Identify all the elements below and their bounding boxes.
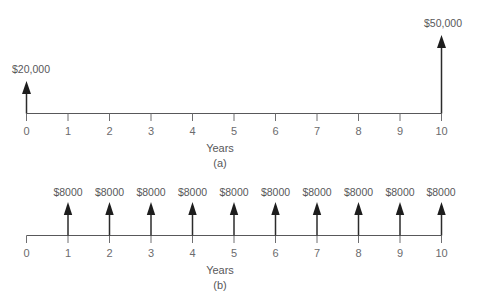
panel-a-tick-label-8: 8 (355, 125, 361, 137)
panel-b-tick-label-4: 4 (189, 247, 195, 259)
panel-a-arrow-head-year-0 (22, 81, 31, 94)
panel-b-arrow-head-year-2 (105, 202, 113, 215)
panel-b-axis-title: Years (206, 264, 234, 276)
panel-a-tick-label-10: 10 (435, 125, 447, 137)
panel-b-arrow-head-year-5 (230, 202, 238, 215)
panel-b-cash-flow-arrow-year-3 (147, 202, 155, 236)
panel-b-tick-label-3: 3 (148, 247, 154, 259)
panel-b-cash-flow-arrow-year-6 (271, 202, 279, 236)
panel-a-axis-title: Years (206, 142, 234, 154)
panel-a-tick-label-9: 9 (397, 125, 403, 137)
panel-b-cash-flow-arrow-year-7 (313, 202, 321, 236)
panel-b-amount-label-year-6: $8000 (261, 186, 290, 198)
panel-a-tick-label-5: 5 (231, 125, 237, 137)
panel-a-amount-label-year-10: $50,000 (424, 17, 462, 29)
panel-a-tick-label-2: 2 (106, 125, 112, 137)
panel-b-arrow-head-year-10 (437, 202, 445, 215)
panel-a-caption: (a) (213, 157, 226, 169)
panel-a-tick-label-7: 7 (314, 125, 320, 137)
panel-b-amount-label-year-2: $8000 (95, 186, 124, 198)
panel-b-cash-flow-arrow-year-9 (396, 202, 404, 236)
panel-b-arrow-head-year-8 (354, 202, 362, 215)
panel-b-arrow-head-year-9 (396, 202, 404, 215)
panel-b-tick-label-10: 10 (435, 247, 447, 259)
panel-b-arrow-head-year-6 (271, 202, 279, 215)
panel-b-arrow-head-year-1 (64, 202, 72, 215)
panel-b-amount-label-year-10: $8000 (426, 186, 455, 198)
panel-b-amount-label-year-8: $8000 (344, 186, 373, 198)
panel-b-tick-label-0: 0 (23, 247, 29, 259)
panel-a-amount-label-year-0: $20,000 (12, 63, 50, 75)
cash-flow-diagram-figure: 0 1 2 3 4 5 6 7 8 9 10 $20,000 $50,000 Y… (0, 0, 477, 300)
panel-b-arrow-head-year-4 (188, 202, 196, 215)
panel-b-amount-label-year-5: $8000 (219, 186, 248, 198)
panel-b-tick-label-7: 7 (314, 247, 320, 259)
panel-b-tick-label-6: 6 (272, 247, 278, 259)
panel-a-tick-label-0: 0 (23, 125, 29, 137)
panel-b-amount-label-year-3: $8000 (136, 186, 165, 198)
panel-a-cash-flow-arrow-year-10 (437, 35, 446, 114)
panel-b-cash-flow-arrow-year-8 (354, 202, 362, 236)
panel-b-cash-flow-arrow-year-2 (105, 202, 113, 236)
panel-b-arrow-head-year-3 (147, 202, 155, 215)
panel-a-arrow-head-year-10 (437, 35, 446, 48)
panel-a-cash-flow-arrow-year-0 (22, 81, 31, 114)
panel-b-tick-label-2: 2 (106, 247, 112, 259)
panel-b-cash-flow-arrow-year-4 (188, 202, 196, 236)
panel-b-cash-flow-arrow-year-10 (437, 202, 445, 236)
panel-b-amount-label-year-4: $8000 (178, 186, 207, 198)
panel-a: 0 1 2 3 4 5 6 7 8 9 10 $20,000 $50,000 Y… (12, 17, 462, 169)
panel-b-amount-label-year-7: $8000 (302, 186, 331, 198)
panel-b-amount-label-year-9: $8000 (385, 186, 414, 198)
panel-b-tick-label-5: 5 (231, 247, 237, 259)
panel-a-tick-label-6: 6 (272, 125, 278, 137)
panel-a-tick-label-3: 3 (148, 125, 154, 137)
panel-b-tick-label-9: 9 (397, 247, 403, 259)
panel-b-cash-flow-arrow-year-5 (230, 202, 238, 236)
panel-a-tick-label-1: 1 (65, 125, 71, 137)
panel-b-amount-label-year-1: $8000 (53, 186, 82, 198)
panel-b-caption: (b) (213, 279, 226, 291)
panel-b-arrow-head-year-7 (313, 202, 321, 215)
panel-b-tick-label-1: 1 (65, 247, 71, 259)
panel-b-tick-label-8: 8 (355, 247, 361, 259)
panel-b-cash-flow-arrow-year-1 (64, 202, 72, 236)
panel-a-tick-label-4: 4 (189, 125, 195, 137)
panel-b: 0 1 2 3 4 5 6 7 8 9 10 $8000 $8000 $8000 (23, 186, 455, 291)
